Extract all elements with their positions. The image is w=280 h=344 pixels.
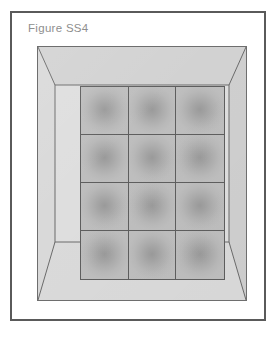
bevel-top-face [38, 47, 246, 85]
figure-caption: Figure SS4 [28, 21, 89, 35]
tile-grid-panel [80, 86, 225, 280]
figure-border-box: Figure SS4 [10, 11, 266, 321]
grid-cell [129, 183, 177, 231]
figure-root: Figure SS4 [0, 0, 280, 344]
grid-cell [176, 231, 224, 279]
perspective-frame [37, 46, 247, 301]
grid-cell [81, 135, 129, 183]
grid-cell [176, 135, 224, 183]
grid-cell [129, 87, 177, 135]
grid-cell [176, 183, 224, 231]
grid-cell [129, 135, 177, 183]
grid-cell [81, 231, 129, 279]
grid-cell [129, 231, 177, 279]
grid-cell [81, 87, 129, 135]
grid-cell [176, 87, 224, 135]
grid-cell [81, 183, 129, 231]
